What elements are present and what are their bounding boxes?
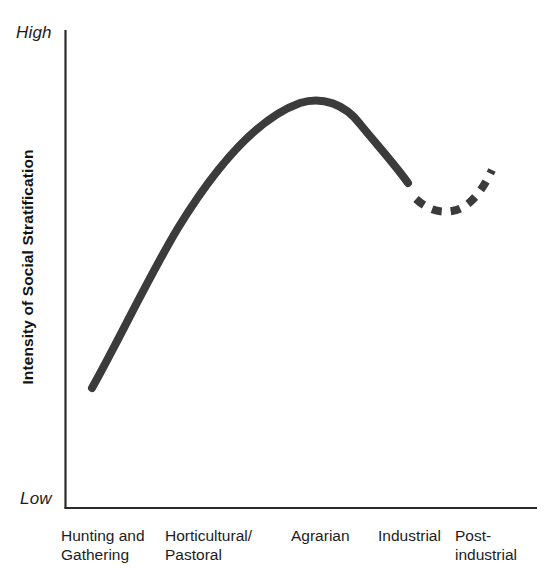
chart-figure: High Low Intensity of Social Stratificat… [0,0,547,571]
x-tick-label-agrarian: Agrarian [291,526,350,545]
x-tick-label-hunting-and-gathering: Hunting and Gathering [61,526,145,564]
stratification-curve-solid [92,101,408,388]
plot-area [0,0,547,571]
x-tick-label-post-industrial: Post- industrial [455,526,517,564]
stratification-curve-projected-dashed [416,170,492,212]
x-tick-label-horticultural-pastoral: Horticultural/ Pastoral [165,526,252,564]
x-tick-label-industrial: Industrial [378,526,441,545]
